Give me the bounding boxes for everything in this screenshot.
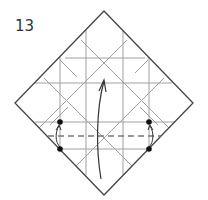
reference-dot xyxy=(146,146,152,152)
diagram-canvas xyxy=(0,0,208,200)
crease-diagonal xyxy=(60,60,77,77)
reference-dot xyxy=(57,119,63,125)
fold-up-arrow xyxy=(98,80,106,179)
crease-diagonal xyxy=(81,40,175,134)
crease-pattern xyxy=(33,30,175,175)
crease-diagonal xyxy=(135,60,148,73)
crease-diagonal xyxy=(33,40,127,134)
reference-dot xyxy=(57,146,63,152)
paper-outline xyxy=(15,11,193,195)
reference-dot xyxy=(146,119,152,125)
origami-diagram: 13 xyxy=(0,0,208,200)
